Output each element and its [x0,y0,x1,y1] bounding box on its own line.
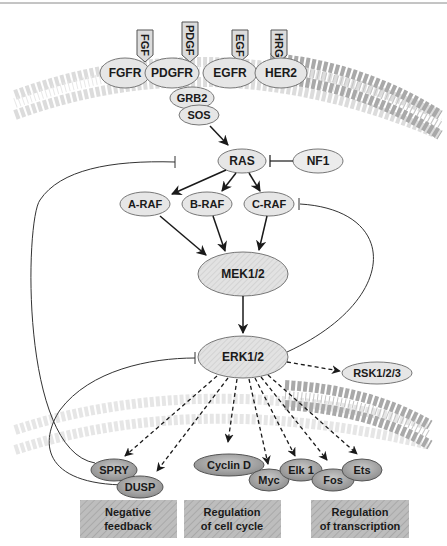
mapk-pathway-diagram: FGF PDGF EGF HRG FGFR PDGFR EGFR HER2 GR… [0,0,447,546]
svg-text:of cell cycle: of cell cycle [201,520,263,532]
node-dusp: DUSP [117,476,163,498]
svg-text:B-RAF: B-RAF [190,198,224,210]
svg-text:Fos: Fos [323,474,343,486]
svg-text:Ets: Ets [353,464,370,476]
receptor-fgfr: FGFR [100,58,150,88]
node-erk: ERK1/2 [198,336,288,378]
ligand-egf: EGF [232,30,248,62]
svg-text:A-RAF: A-RAF [128,198,162,210]
svg-text:GRB2: GRB2 [177,92,208,104]
node-nf1: NF1 [293,149,343,173]
lower-membrane [15,385,430,450]
ligand-hrg: HRG [271,30,287,62]
svg-text:Elk 1: Elk 1 [288,464,314,476]
svg-text:FGFR: FGFR [109,66,142,80]
svg-text:Regulation: Regulation [204,506,261,518]
receptor-pdgfr: PDGFR [145,58,199,88]
node-ras: RAS [218,149,266,173]
svg-text:PDGF: PDGF [184,25,196,56]
svg-text:RSK1/2/3: RSK1/2/3 [353,367,401,379]
svg-text:ERK1/2: ERK1/2 [222,350,264,364]
outcome-cell-cycle: Regulation of cell cycle [184,500,281,538]
svg-text:FGF: FGF [139,34,151,56]
ligand-fgf: FGF [137,30,153,62]
inhibition-nf1-ras [270,155,293,167]
svg-text:of transcription: of transcription [320,520,401,532]
svg-text:PDGFR: PDGFR [151,66,193,80]
svg-text:C-RAF: C-RAF [252,198,286,210]
node-b-raf: B-RAF [182,192,232,216]
svg-text:MEK1/2: MEK1/2 [221,267,265,281]
svg-text:feedback: feedback [104,520,153,532]
receptor-egfr: EGFR [203,58,257,88]
feedback-erk-craf [287,198,373,352]
svg-text:Cyclin D: Cyclin D [207,459,251,471]
node-c-raf: C-RAF [244,192,294,216]
receptor-her2: HER2 [255,58,307,88]
node-a-raf: A-RAF [120,192,170,216]
svg-text:DUSP: DUSP [125,481,156,493]
outcome-negative-feedback: Negative feedback [80,500,177,538]
svg-text:Myc: Myc [258,474,279,486]
svg-text:SPRY: SPRY [99,464,129,476]
outcome-transcription: Regulation of transcription [311,500,409,538]
svg-text:Regulation: Regulation [332,506,389,518]
ligand-pdgf: PDGF [182,22,198,62]
node-rsk: RSK1/2/3 [342,362,412,384]
svg-text:RAS: RAS [229,154,254,168]
svg-text:EGFR: EGFR [213,66,247,80]
svg-text:HER2: HER2 [265,66,297,80]
svg-text:EGF: EGF [234,34,246,57]
node-mek: MEK1/2 [198,252,288,296]
node-sos: SOS [179,105,219,125]
svg-text:Negative: Negative [105,506,151,518]
svg-text:NF1: NF1 [307,154,330,168]
svg-text:HRG: HRG [273,33,285,57]
svg-text:SOS: SOS [187,109,210,121]
node-ets: Ets [342,459,382,481]
